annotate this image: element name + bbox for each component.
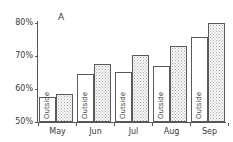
x-axis-tick-label: Aug [164,127,180,136]
bar-chart: A 80%70%60%50% MayJunJulAugSep OutsideOu… [0,0,233,142]
bar-aug-inside [170,46,187,122]
bar-inner-label: Outside [196,92,203,119]
x-axis-tick-mark [228,123,229,126]
x-axis-tick-mark [152,123,153,126]
bar-jul-inside [132,55,149,122]
bar-jun-outside: Outside [77,74,94,122]
bar-jul-outside: Outside [115,72,132,122]
x-axis-line [37,122,226,123]
bar-may-outside: Outside [39,97,56,122]
x-axis-tick-label: Jun [89,127,102,136]
y-axis-tick-label: 70% [15,51,33,60]
x-axis-tick-mark [38,123,39,126]
bar-may-inside [56,94,73,122]
bar-inner-label: Outside [158,92,165,119]
y-axis-tick-label: 80% [15,18,33,27]
y-axis-tick-label: 50% [15,117,33,126]
x-axis-tick-mark [114,123,115,126]
bar-sep-outside: Outside [191,37,208,122]
plot-area: OutsideOutsideOutsideOutsideOutside [38,18,226,122]
x-axis-tick-mark [190,123,191,126]
bar-inner-label: Outside [44,92,51,119]
bar-jun-inside [94,64,111,122]
x-axis-tick-label: May [49,127,66,136]
bar-inner-label: Outside [82,92,89,119]
x-axis-tick-label: Jul [129,127,139,136]
bar-aug-outside: Outside [153,66,170,122]
x-axis-tick-label: Sep [202,127,217,136]
y-axis-tick-label: 60% [15,84,33,93]
bar-sep-inside [208,23,225,123]
x-axis-tick-mark [76,123,77,126]
bar-inner-label: Outside [120,92,127,119]
